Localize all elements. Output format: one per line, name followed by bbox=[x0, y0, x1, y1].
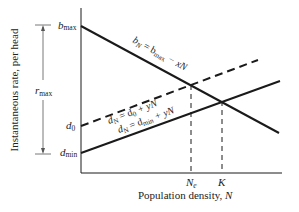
population-density-diagram: Instantaneous rate, per head rmax bmax d… bbox=[0, 0, 299, 212]
b-max-label: bmax bbox=[58, 19, 77, 32]
x-axis-label: Population density, N bbox=[138, 189, 233, 201]
d-min-label: dmin bbox=[60, 146, 77, 159]
y-axis-label: Instantaneous rate, per head bbox=[8, 28, 20, 151]
r-max-label: rmax bbox=[35, 84, 52, 98]
arrow-up-icon bbox=[41, 25, 45, 31]
arrow-down-icon bbox=[41, 148, 45, 154]
d-0-label: d0 bbox=[66, 119, 76, 133]
n-e-label: Ne bbox=[185, 176, 197, 190]
k-label: K bbox=[217, 176, 226, 188]
